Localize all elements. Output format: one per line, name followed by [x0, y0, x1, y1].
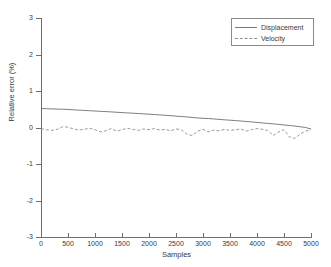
legend-item-displacement: Displacement [235, 22, 313, 33]
y-tick-label: -2 [0, 197, 33, 204]
legend-label: Displacement [261, 22, 303, 33]
y-tick-label: -1 [0, 160, 33, 167]
y-tick-label: 2 [0, 51, 33, 58]
series-line-velocity [41, 127, 311, 139]
figure-canvas: Relative error (%) -3-2-10123 0500100015… [0, 0, 331, 267]
legend-item-velocity: Velocity [235, 33, 313, 44]
y-tick-label: 3 [0, 14, 33, 21]
legend-label: Velocity [261, 33, 285, 44]
data-curves [41, 18, 311, 237]
series-line-displacement [41, 109, 311, 129]
x-tick-mark [311, 233, 312, 238]
legend-line-solid-icon [235, 27, 257, 28]
x-tick-label: 5000 [291, 240, 331, 247]
y-tick-label: 0 [0, 124, 33, 131]
legend-line-dashed-icon [235, 38, 257, 39]
y-tick-label: 1 [0, 87, 33, 94]
y-tick-label: -3 [0, 233, 33, 240]
plot-area [41, 18, 311, 237]
x-axis-label: Samples [41, 251, 312, 259]
legend-box: Displacement Velocity [231, 18, 314, 46]
